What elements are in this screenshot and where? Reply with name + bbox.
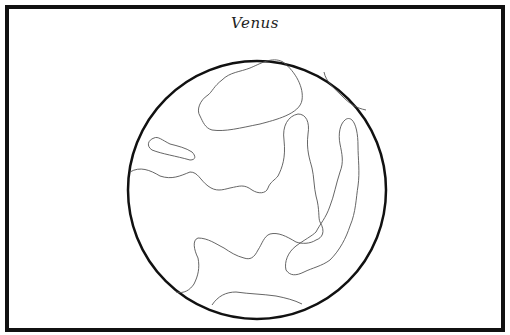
planet-icon xyxy=(128,60,386,319)
venus-planet-illustration xyxy=(0,0,510,335)
